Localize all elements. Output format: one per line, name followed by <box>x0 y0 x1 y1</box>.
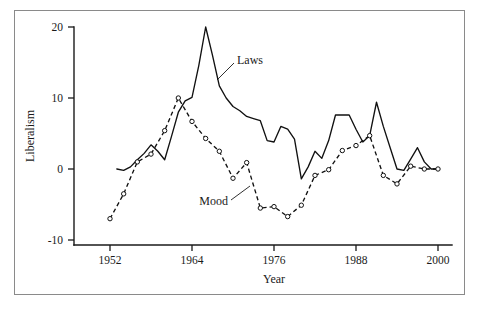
y-tick-label-10: 10 <box>52 92 64 104</box>
data-point-marker <box>422 167 426 171</box>
data-point-marker <box>408 164 412 168</box>
data-point-marker <box>381 173 385 177</box>
y-axis-title: Liberalism <box>23 109 37 162</box>
x-axis-ticks <box>110 245 438 251</box>
data-point-marker <box>244 160 248 164</box>
x-tick-label-2000: 2000 <box>427 254 450 266</box>
x-tick-label-1976: 1976 <box>263 254 286 266</box>
laws-annotation-label: Laws <box>237 53 263 67</box>
data-point-marker <box>258 206 262 210</box>
y-tick-label-20: 20 <box>52 21 64 33</box>
data-point-marker <box>395 182 399 186</box>
series-line-laws <box>117 27 438 179</box>
figure-container: 20 10 0 -10 1952 1964 1976 1988 2000 Yea… <box>0 0 479 309</box>
x-tick-label-1988: 1988 <box>345 254 368 266</box>
mood-annotation-leader <box>231 186 250 200</box>
data-point-marker <box>190 119 194 123</box>
data-point-marker <box>217 149 221 153</box>
x-tick-label-1952: 1952 <box>99 254 122 266</box>
data-point-marker <box>367 133 371 137</box>
y-tick-label-0: 0 <box>57 163 63 175</box>
data-point-marker <box>354 143 358 147</box>
data-point-marker <box>285 214 289 218</box>
data-point-marker <box>121 192 125 196</box>
data-point-marker <box>108 217 112 221</box>
y-axis-ticks <box>68 27 74 240</box>
data-point-marker <box>340 148 344 152</box>
data-point-marker <box>436 167 440 171</box>
data-point-marker <box>326 168 330 172</box>
data-point-marker <box>162 128 166 132</box>
y-tick-label-neg10: -10 <box>48 234 64 246</box>
data-point-marker <box>176 96 180 100</box>
data-point-marker <box>149 152 153 156</box>
mood-annotation-label: Mood <box>199 194 228 208</box>
data-point-marker <box>135 160 139 164</box>
x-axis-title: Year <box>263 272 285 286</box>
x-tick-label-1964: 1964 <box>181 254 204 266</box>
series-line-mood <box>110 98 438 219</box>
data-point-marker <box>231 176 235 180</box>
data-point-marker <box>203 136 207 140</box>
data-point-marker <box>313 173 317 177</box>
laws-annotation-leader <box>217 63 234 80</box>
line-chart: 20 10 0 -10 1952 1964 1976 1988 2000 Yea… <box>0 0 479 309</box>
data-point-marker <box>272 204 276 208</box>
data-point-marker <box>299 203 303 207</box>
series-markers-mood <box>108 96 440 221</box>
